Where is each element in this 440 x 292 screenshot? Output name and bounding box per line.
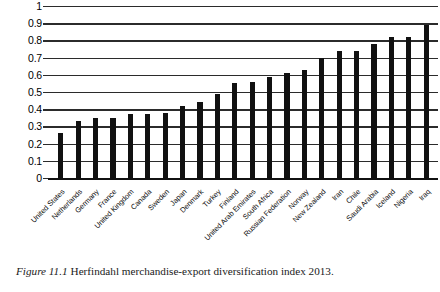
bar-chart: 10.90.80.70.60.50.40.30.20.10 United Sta…: [0, 6, 440, 186]
bar-slot: [365, 6, 382, 178]
bar-series: [48, 6, 438, 178]
bar-slot: [209, 6, 226, 178]
figure-number: Figure 11.1: [16, 265, 68, 277]
bar[interactable]: [128, 114, 133, 178]
bar-slot: [418, 6, 435, 178]
bar[interactable]: [180, 106, 185, 178]
bar-slot: [313, 6, 330, 178]
bar-slot: [52, 6, 69, 178]
bar-slot: [400, 6, 417, 178]
y-axis-tick-label: 0.6: [28, 70, 42, 81]
bar[interactable]: [284, 73, 289, 178]
x-label-slot: Nigeria: [400, 186, 417, 258]
bar[interactable]: [250, 82, 255, 178]
bar-slot: [278, 6, 295, 178]
bar[interactable]: [337, 51, 342, 178]
bar-slot: [296, 6, 313, 178]
bar-slot: [191, 6, 208, 178]
bar[interactable]: [406, 37, 411, 178]
plot-area: [48, 6, 438, 178]
bar[interactable]: [232, 83, 237, 178]
bar-slot: [331, 6, 348, 178]
bar-slot: [139, 6, 156, 178]
y-axis-tick-label: 0: [36, 173, 42, 184]
bar[interactable]: [76, 121, 81, 178]
y-axis-tick-label: 1: [36, 1, 42, 12]
figure: 10.90.80.70.60.50.40.30.20.10 United Sta…: [0, 0, 440, 292]
bar-slot: [243, 6, 260, 178]
y-axis-tick-label: 0.3: [28, 121, 42, 132]
y-axis-tick-label: 0.1: [28, 156, 42, 167]
x-axis-category-label: Iran: [330, 188, 344, 202]
bar[interactable]: [110, 118, 115, 178]
bar-slot: [87, 6, 104, 178]
y-axis-tick-label: 0.8: [28, 35, 42, 46]
y-axis-tick-label: 0.4: [28, 104, 42, 115]
bar[interactable]: [215, 94, 220, 178]
bar[interactable]: [145, 114, 150, 178]
x-axis-category-label: Iraq: [417, 188, 431, 202]
y-axis-tick-label: 0.2: [28, 138, 42, 149]
x-label-slot: New Zealand: [313, 186, 330, 258]
bar[interactable]: [389, 37, 394, 178]
bar[interactable]: [267, 77, 272, 178]
bar-slot: [156, 6, 173, 178]
x-axis-line: [48, 178, 438, 180]
bar[interactable]: [163, 113, 168, 178]
x-label-slot: Iraq: [418, 186, 435, 258]
bar[interactable]: [354, 51, 359, 178]
bar[interactable]: [319, 58, 324, 178]
y-axis-tick-label: 0.5: [28, 87, 42, 98]
bar[interactable]: [197, 102, 202, 178]
bar-slot: [226, 6, 243, 178]
y-axis-tick-label: 0.7: [28, 52, 42, 63]
bar-slot: [174, 6, 191, 178]
bar[interactable]: [424, 25, 429, 178]
bar-slot: [122, 6, 139, 178]
bar[interactable]: [93, 118, 98, 178]
bar-slot: [104, 6, 121, 178]
figure-caption: Figure 11.1Herfindahl merchandise-export…: [16, 264, 426, 278]
bar[interactable]: [371, 44, 376, 178]
bar[interactable]: [58, 133, 63, 178]
x-axis-labels: United StatesNetherlandsGermanyFranceUni…: [48, 186, 438, 258]
bar-slot: [69, 6, 86, 178]
bar[interactable]: [302, 70, 307, 178]
figure-caption-text: Herfindahl merchandise-export diversific…: [71, 265, 334, 277]
bar-slot: [348, 6, 365, 178]
y-axis-tick: [43, 178, 48, 179]
y-axis-tick-label: 0.9: [28, 18, 42, 29]
y-axis: 10.90.80.70.60.50.40.30.20.10: [0, 6, 48, 178]
bar-slot: [383, 6, 400, 178]
bar-slot: [261, 6, 278, 178]
